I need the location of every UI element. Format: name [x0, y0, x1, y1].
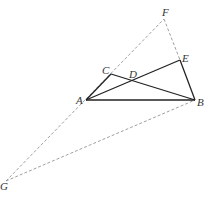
point-label-G: G [0, 180, 8, 192]
segment-CB [111, 74, 195, 100]
point-labels: ABCDEFG [0, 6, 204, 192]
point-label-A: A [75, 94, 83, 106]
point-label-E: E [181, 52, 189, 64]
segment-GB [6, 100, 195, 181]
point-label-B: B [197, 96, 204, 108]
segment-AC [86, 74, 111, 100]
point-label-D: D [128, 68, 137, 80]
segment-EB [180, 60, 195, 100]
point-label-C: C [102, 64, 110, 76]
point-label-F: F [161, 6, 169, 18]
geometry-diagram: ABCDEFG [0, 0, 216, 204]
segment-AE [86, 60, 180, 100]
segment-FE [164, 19, 180, 60]
